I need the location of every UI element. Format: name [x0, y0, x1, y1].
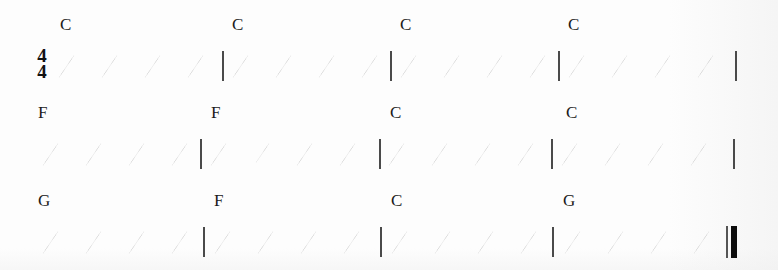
- rhythm-slash: [209, 141, 228, 168]
- chord-label: G: [563, 192, 576, 209]
- rhythm-slash: [442, 53, 461, 80]
- rhythm-slash: [274, 53, 293, 80]
- barline: [733, 139, 735, 169]
- time-signature-denominator: 4: [33, 64, 51, 80]
- barline: [200, 139, 202, 169]
- rhythm-slash: [342, 229, 361, 256]
- rhythm-slash: [606, 229, 625, 256]
- rhythm-slash: [299, 229, 318, 256]
- rhythm-slash: [231, 53, 250, 80]
- rhythm-slash: [696, 53, 715, 80]
- rhythm-slash: [473, 141, 492, 168]
- rhythm-slash: [317, 53, 336, 80]
- chord-label: C: [568, 16, 580, 33]
- rhythm-slash: [41, 141, 60, 168]
- rhythm-slash: [528, 53, 547, 80]
- rhythm-slash: [399, 53, 418, 80]
- time-signature: 4 4: [33, 48, 51, 79]
- final-barline-thick: [731, 226, 737, 258]
- chord-label: C: [390, 104, 402, 121]
- barline: [390, 51, 392, 81]
- system-1: 4 4 C C C C: [0, 0, 778, 88]
- rhythm-slash: [170, 141, 189, 168]
- rhythm-slash: [390, 229, 409, 256]
- rhythm-slash: [560, 141, 579, 168]
- chord-label: G: [38, 192, 51, 209]
- barline: [552, 227, 554, 257]
- rhythm-slash: [646, 141, 665, 168]
- rhythm-slash: [127, 141, 146, 168]
- rhythm-slash: [430, 141, 449, 168]
- rhythm-slash: [689, 141, 708, 168]
- final-barline-thin: [726, 226, 728, 258]
- rhythm-slash: [57, 53, 76, 80]
- rhythm-slash: [252, 141, 271, 168]
- chord-label: F: [38, 104, 48, 121]
- rhythm-slash: [256, 229, 275, 256]
- chord-label: C: [391, 192, 403, 209]
- rhythm-slash: [476, 229, 495, 256]
- barline: [551, 139, 553, 169]
- rhythm-slash: [485, 53, 504, 80]
- chord-label: C: [566, 104, 578, 121]
- rhythm-slash: [295, 141, 314, 168]
- rhythm-slash: [567, 53, 586, 80]
- rhythm-slash: [610, 53, 629, 80]
- rhythm-slash: [41, 229, 60, 256]
- system-2: F F C C: [0, 88, 778, 176]
- rhythm-slash: [603, 141, 622, 168]
- barline: [380, 227, 382, 257]
- rhythm-slash: [100, 53, 119, 80]
- rhythm-slash: [84, 229, 103, 256]
- chord-label: C: [60, 16, 72, 33]
- barline: [735, 51, 737, 81]
- barline: [203, 227, 205, 257]
- barline: [558, 51, 560, 81]
- rhythm-slash: [563, 229, 582, 256]
- rhythm-slash: [213, 229, 232, 256]
- chord-label: F: [214, 192, 224, 209]
- rhythm-slash: [516, 141, 535, 168]
- chord-chart-sheet: 4 4 C C C C F F C C: [0, 0, 778, 270]
- chord-label: C: [232, 16, 244, 33]
- rhythm-slash: [186, 53, 205, 80]
- barline: [379, 139, 381, 169]
- rhythm-slash: [649, 229, 668, 256]
- chord-label: C: [400, 16, 412, 33]
- rhythm-slash: [387, 141, 406, 168]
- rhythm-slash: [127, 229, 146, 256]
- rhythm-slash: [360, 53, 379, 80]
- system-3: G F C G: [0, 176, 778, 264]
- rhythm-slash: [433, 229, 452, 256]
- rhythm-slash: [84, 141, 103, 168]
- rhythm-slash: [692, 229, 711, 256]
- barline: [222, 51, 224, 81]
- rhythm-slash: [143, 53, 162, 80]
- rhythm-slash: [170, 229, 189, 256]
- rhythm-slash: [519, 229, 538, 256]
- rhythm-slash: [653, 53, 672, 80]
- rhythm-slash: [338, 141, 357, 168]
- chord-label: F: [211, 104, 221, 121]
